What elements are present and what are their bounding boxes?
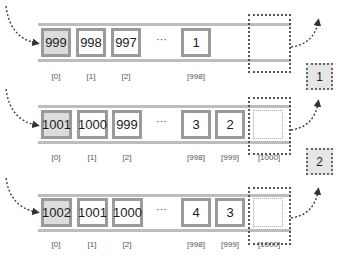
index-label: [1] [73,72,109,81]
array-cell: 1001 [77,198,108,227]
index-label: [0] [38,153,74,162]
index-label: [998] [178,240,214,249]
outgoing-arrow-row3 [291,191,318,218]
index-label: [999] [212,240,248,249]
outgoing-arrow-row1 [291,22,318,47]
array-cell: 999 [112,110,142,139]
array-cell: 998 [76,28,106,57]
array-cell: 997 [111,28,141,57]
new-slot-inner [253,110,283,139]
array-cell: 999 [41,28,71,57]
array-cell: 3 [215,198,245,227]
index-label: [999] [212,153,248,162]
ellipsis: ··· [156,33,167,45]
incoming-arrow-row3 [6,178,36,212]
index-label: [1] [74,153,110,162]
index-label: [0] [38,240,74,249]
array-cell: 1002 [41,198,72,227]
array-cell: 4 [181,198,211,227]
index-label: [1] [74,240,110,249]
index-label: [998] [178,153,214,162]
array-cell: 2 [215,110,245,139]
incoming-arrow-row1 [6,6,36,43]
new-slot-inner [253,198,283,227]
incoming-arrow-row2 [6,89,36,125]
array-cell: 1000 [77,110,108,139]
array-cell: 1001 [41,110,72,139]
step-badge-1: 1 [306,63,333,90]
index-label: [1000] [251,240,287,249]
ellipsis: ··· [156,115,167,127]
step-badge-2: 2 [306,148,333,175]
index-label: [2] [109,153,145,162]
array-cell: 1000 [112,198,143,227]
array-cell: 1 [181,28,211,57]
outgoing-arrow-row2 [291,103,318,130]
index-label: [0] [38,72,74,81]
index-label: [998] [178,72,214,81]
ellipsis: ··· [156,203,167,215]
index-label: [2] [109,240,145,249]
index-label: [1000] [251,153,287,162]
array-cell: 3 [181,110,211,139]
index-label: [2] [108,72,144,81]
new-slot [248,14,291,73]
